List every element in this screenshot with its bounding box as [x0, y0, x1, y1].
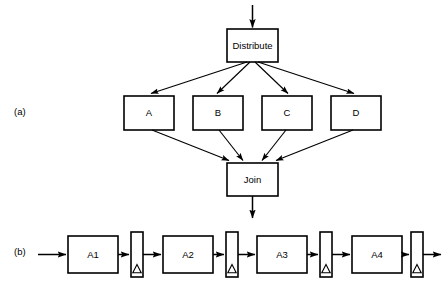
node-branch-c[interactable]: C [262, 96, 312, 130]
node-branch-b[interactable]: B [193, 96, 243, 130]
distribute-label: Distribute [232, 40, 272, 51]
diagram-canvas: (a) (b) Distribute A [0, 0, 448, 281]
fanout-edges [151, 62, 354, 94]
part-label-a: (a) [14, 106, 26, 117]
panel-a-group: Distribute A B C [124, 5, 381, 218]
branch-d-label: D [353, 107, 360, 118]
edge-b-to-join [219, 130, 243, 161]
stage-a1[interactable]: A1 [68, 236, 118, 273]
stage-a4[interactable]: A4 [352, 236, 402, 273]
edge-c-to-join [262, 130, 286, 161]
edge-distribute-to-d [258, 62, 354, 94]
buffer-4[interactable] [411, 232, 423, 277]
figure-root: (a) (b) Distribute A [0, 0, 448, 281]
stage-a1-label: A1 [87, 249, 99, 260]
node-distribute[interactable]: Distribute [227, 29, 278, 62]
edge-d-to-join [276, 130, 353, 161]
stage-a3[interactable]: A3 [257, 236, 307, 273]
branch-b-label: B [215, 107, 221, 118]
part-labels: (a) (b) [14, 106, 26, 257]
buffer-3[interactable] [320, 232, 332, 277]
stage-a4-label: A4 [371, 249, 383, 260]
buffer-1[interactable] [131, 232, 143, 277]
panel-b-group: A1 A2 A3 [38, 232, 441, 277]
fanin-edges [152, 130, 353, 161]
edge-distribute-to-a [151, 62, 247, 94]
node-branch-d[interactable]: D [331, 96, 381, 130]
branch-a-label: A [146, 107, 153, 118]
part-label-b: (b) [14, 246, 26, 257]
buffer-2[interactable] [226, 232, 238, 277]
stage-a3-label: A3 [276, 249, 288, 260]
edge-a-to-join [152, 130, 229, 161]
join-label: Join [244, 174, 261, 185]
stage-a2[interactable]: A2 [163, 236, 213, 273]
branch-c-label: C [284, 107, 291, 118]
node-branch-a[interactable]: A [124, 96, 174, 130]
stage-a2-label: A2 [182, 249, 194, 260]
node-join[interactable]: Join [227, 163, 278, 196]
